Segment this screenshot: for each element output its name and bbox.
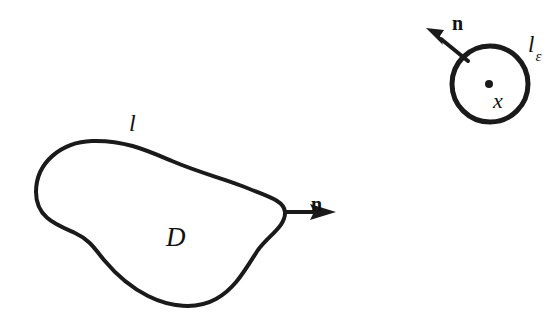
epsilon-normal-label: n [452,12,463,34]
domain-boundary-label: l [129,110,136,136]
domain-interior-label: D [165,222,186,252]
domain-normal-label: n [311,193,322,215]
math-diagram-canvas: l D n x lε n [0,0,557,327]
epsilon-disk-boundary-label-subscript: ε [535,48,541,64]
center-point-dot-icon [485,80,493,88]
figure-container: l D n x lε n [0,0,557,327]
center-point-label: x [492,88,503,113]
epsilon-disk-boundary-label-base: l [528,32,534,57]
